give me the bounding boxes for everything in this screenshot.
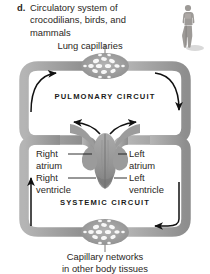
capillary-networks-label-line1: Capillary networks — [67, 251, 144, 262]
capillary-networks-label-line2: in other body tissues — [62, 263, 148, 274]
left-atrium-label-line1: Left — [129, 148, 145, 159]
lung-capillaries-label: Lung capillaries — [57, 40, 122, 51]
pulmonary-left-arrow — [31, 73, 56, 112]
circulatory-diagram: PULMONARY CIRCUIT Lung capillaries — [0, 0, 210, 274]
left-atrium-label-line2: atrium — [129, 160, 155, 171]
right-atrium-label-line2: atrium — [36, 160, 62, 171]
pulmonary-right-arrow — [155, 73, 179, 110]
right-ventricle-label-line1: Right — [36, 172, 58, 183]
right-ventricle-label-line2: ventricle — [36, 184, 71, 195]
body-capillary-bed — [81, 219, 129, 252]
left-ventricle-label-line2: ventricle — [129, 184, 164, 195]
systemic-circuit-label: SYSTEMIC CIRCUIT — [60, 198, 150, 207]
right-atrium-label-line1: Right — [36, 148, 58, 159]
left-ventricle-label-line1: Left — [129, 172, 145, 183]
circulatory-system-figure: d. Circulatory system of crocodilians, b… — [0, 0, 210, 274]
pulmonary-circuit-label: PULMONARY CIRCUIT — [55, 92, 156, 101]
